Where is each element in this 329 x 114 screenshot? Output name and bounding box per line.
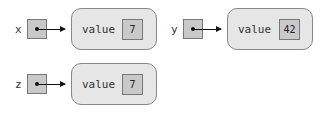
object-box-1: value 7: [71, 8, 157, 50]
variable-label-y: y: [171, 24, 178, 36]
field-value: 7: [122, 74, 143, 95]
field-value: 42: [279, 19, 300, 40]
field-name: value: [82, 24, 115, 36]
field-name: value: [82, 79, 115, 91]
variable-label-x: x: [15, 24, 22, 36]
arrow-icon: [37, 84, 65, 85]
arrow-icon: [193, 29, 221, 30]
variable-label-z: z: [15, 79, 22, 91]
object-box-3: value 7: [71, 63, 157, 105]
field-name: value: [238, 24, 271, 36]
field-value: 7: [122, 19, 143, 40]
arrow-icon: [37, 29, 65, 30]
object-box-2: value 42: [227, 8, 313, 50]
